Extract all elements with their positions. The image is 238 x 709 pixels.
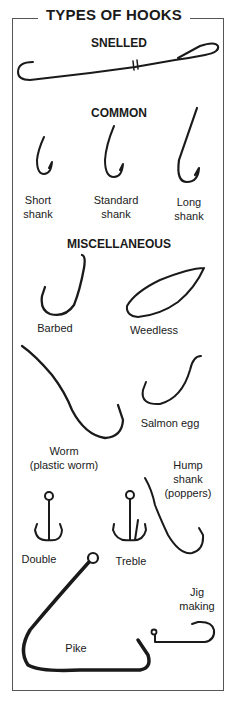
label-short-shank: Short shank [18,193,58,221]
double-hook-icon [35,492,62,540]
treble-hook-icon [113,491,146,540]
jig-making-hook-icon [152,622,215,642]
label-jig-making: Jig making [172,585,222,613]
short-shank-hook-icon [37,137,52,174]
label-weedless: Weedless [120,323,188,337]
label-long-shank: Long shank [168,195,210,223]
standard-shank-hook-icon [105,126,123,177]
label-standard-shank: Standard shank [86,193,146,221]
label-pike: Pike [58,641,94,655]
label-salmon-egg: Salmon egg [134,416,206,430]
label-worm: Worm (plastic worm) [20,444,108,472]
snelled-hook-icon [18,44,218,81]
label-treble: Treble [108,554,154,568]
barbed-hook-icon [42,255,85,315]
long-shank-hook-icon [178,108,199,182]
label-hump-shank: Hump shank (poppers) [160,458,216,500]
label-double: Double [16,552,62,566]
worm-hook-icon [22,346,123,438]
label-barbed: Barbed [30,321,80,335]
salmon-egg-hook-icon [143,356,201,404]
weedless-hook-icon [127,268,204,317]
